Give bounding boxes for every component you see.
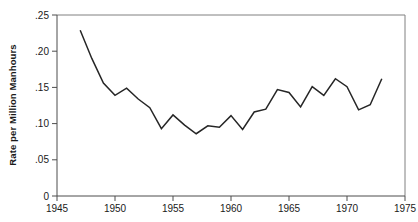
y-tick-label-0: 0 [43, 191, 49, 202]
y-tick-label-010: .10 [35, 118, 49, 129]
data-series-line [80, 30, 382, 134]
y-axis-title: Rate per Million Manhours [7, 44, 18, 165]
x-tick-label-1950: 1950 [104, 203, 127, 214]
y-tick-label-015: .15 [35, 82, 49, 93]
x-tick-label-1945: 1945 [46, 203, 69, 214]
y-tick-label-020: .20 [35, 46, 49, 57]
plot-frame [57, 15, 405, 196]
y-axis-ticks [52, 15, 57, 196]
x-tick-label-1960: 1960 [220, 203, 243, 214]
x-axis-tick-labels: 1945 1950 1955 1960 1965 1970 1975 [46, 203, 417, 214]
chart-figure: Rate per Million Manhours 0 .05 .10 .15 … [0, 0, 418, 222]
x-tick-label-1970: 1970 [336, 203, 359, 214]
x-tick-label-1965: 1965 [278, 203, 301, 214]
x-axis-ticks [57, 196, 405, 201]
axes [57, 15, 405, 196]
y-tick-label-005: .05 [35, 154, 49, 165]
x-tick-label-1955: 1955 [162, 203, 185, 214]
x-tick-label-1975: 1975 [394, 203, 417, 214]
y-axis-tick-labels: 0 .05 .10 .15 .20 .25 [35, 10, 49, 202]
line-chart: Rate per Million Manhours 0 .05 .10 .15 … [0, 0, 418, 222]
y-tick-label-025: .25 [35, 10, 49, 21]
